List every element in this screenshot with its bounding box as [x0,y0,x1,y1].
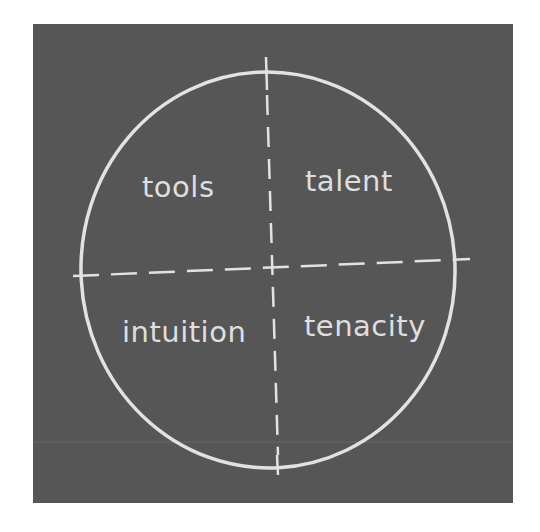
quadrant-diagram: tools talent intuition tenacity [0,0,540,532]
vertical-axis-top-tick [266,57,267,90]
vertical-axis-bottom-tick [277,455,278,475]
quadrant-label-intuition: intuition [122,315,246,349]
quadrant-label-talent: talent [305,164,393,198]
quadrant-label-tools: tools [142,170,215,204]
outer-circle [71,62,465,477]
vertical-axis-dashed [267,95,278,455]
quadrant-label-tenacity: tenacity [304,309,426,343]
